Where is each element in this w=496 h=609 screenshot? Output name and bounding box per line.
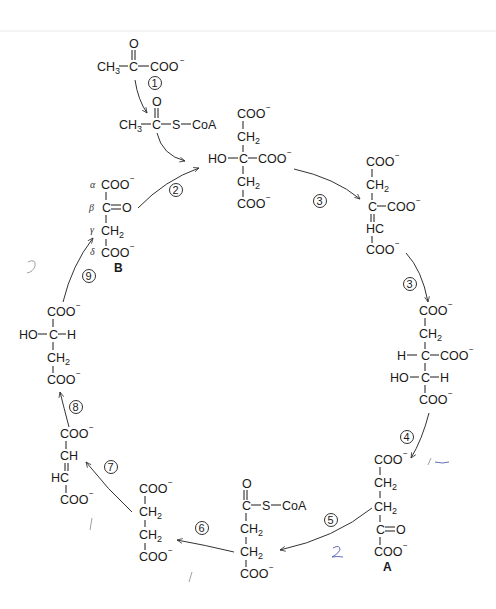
svg-text:HO: HO (390, 371, 409, 385)
svg-text:O: O (129, 37, 139, 51)
svg-text:COO: COO (47, 373, 76, 387)
svg-text:3: 3 (407, 278, 413, 290)
svg-text:CH3: CH3 (119, 118, 142, 134)
svg-text:COO: COO (60, 427, 89, 441)
svg-text:O: O (396, 523, 406, 537)
step-9-badge: 9 (83, 270, 96, 283)
svg-text:O: O (122, 201, 132, 215)
svg-text:CH2: CH2 (374, 500, 397, 516)
svg-text:C: C (129, 60, 138, 74)
svg-text:O: O (242, 477, 252, 491)
svg-text:CH2: CH2 (139, 528, 162, 544)
isocitrate-structure: COO − CH2 H C COO − HO C H COO − (390, 300, 474, 407)
svg-text:COO: COO (101, 178, 130, 192)
arrow-acetyl-to-citrate (157, 133, 185, 161)
svg-text:−: − (76, 301, 81, 310)
svg-text:CH2: CH2 (240, 522, 263, 538)
step-3b-badge: 3 (404, 278, 417, 291)
svg-text:COO: COO (150, 60, 179, 74)
svg-text:−: − (448, 389, 453, 398)
malate-structure: COO − HO C H CH2 COO − (19, 301, 81, 387)
svg-text:C: C (49, 328, 58, 342)
succinate-structure: COO − CH2 CH2 COO − (139, 478, 173, 564)
svg-text:HO: HO (19, 328, 38, 342)
svg-text:−: − (168, 478, 173, 487)
svg-text:δ: δ (90, 246, 95, 257)
svg-text:9: 9 (86, 270, 92, 282)
svg-text:2: 2 (173, 184, 179, 196)
svg-text:C: C (368, 200, 377, 214)
svg-text:6: 6 (199, 522, 205, 534)
succinyl-coa-structure: O C S CoA CH2 CH2 COO − (240, 477, 307, 581)
svg-text:4: 4 (404, 431, 410, 443)
svg-text:S: S (262, 499, 270, 513)
pyruvate-structure: CH3 C O COO − (97, 37, 185, 76)
svg-text:−: − (403, 449, 408, 458)
svg-text:COO: COO (366, 155, 395, 169)
svg-text:CoA: CoA (192, 118, 217, 132)
svg-text:CoA: CoA (282, 499, 307, 513)
svg-text:H: H (397, 349, 406, 363)
svg-text:COO: COO (258, 152, 287, 166)
svg-text:CH2: CH2 (374, 476, 397, 492)
svg-text:HO: HO (208, 152, 227, 166)
arrow-step-1 (135, 80, 147, 113)
svg-text:COO: COO (237, 107, 266, 121)
svg-text:COO: COO (387, 200, 416, 214)
svg-text:−: − (89, 423, 94, 432)
svg-text:C: C (421, 349, 430, 363)
svg-text:COO: COO (139, 482, 168, 496)
arrow-step-6 (177, 540, 234, 552)
svg-text:COO: COO (139, 550, 168, 564)
svg-text:O: O (152, 95, 162, 109)
svg-text:γ: γ (90, 224, 95, 235)
svg-text:COO: COO (440, 349, 469, 363)
svg-text:−: − (76, 369, 81, 378)
handwritten-2-mark (332, 546, 343, 557)
svg-text:−: − (448, 300, 453, 309)
svg-text:CH3: CH3 (97, 60, 120, 76)
svg-text:CH2: CH2 (366, 178, 389, 194)
arrow-step-2 (138, 168, 199, 208)
svg-text:7: 7 (108, 461, 114, 473)
label-a: A (383, 560, 392, 574)
svg-text:−: − (469, 345, 474, 354)
step-5-badge: 5 (325, 514, 338, 527)
arrow-step-8 (60, 392, 69, 427)
fumarate-structure: COO − CH HC COO − (51, 423, 94, 507)
step-2-badge: 2 (170, 184, 183, 197)
svg-text:S: S (172, 118, 180, 132)
handwritten-dash-mark (435, 462, 449, 463)
svg-text:−: − (269, 563, 274, 572)
cis-aconitate-structure: COO − CH2 C COO − HC COO − (366, 151, 421, 257)
label-b: B (114, 261, 123, 275)
citrate-structure: COO − CH2 HO C COO − CH2 COO − (208, 103, 292, 211)
svg-text:3: 3 (317, 195, 323, 207)
svg-text:8: 8 (73, 401, 79, 413)
handwritten-question-mark (27, 261, 35, 273)
step-7-badge: 7 (105, 461, 118, 474)
svg-text:−: − (403, 541, 408, 550)
svg-text:CH2: CH2 (101, 224, 124, 240)
arrow-step-5 (280, 508, 372, 550)
svg-text:−: − (395, 151, 400, 160)
svg-text:COO: COO (374, 545, 403, 559)
svg-text:α: α (90, 179, 96, 190)
step-1-badge: 1 (149, 77, 162, 90)
svg-text:H: H (440, 371, 449, 385)
svg-text:−: − (287, 148, 292, 157)
svg-text:COO: COO (101, 246, 130, 260)
svg-text:COO: COO (47, 305, 76, 319)
scan-edge-line (0, 30, 496, 32)
svg-text:−: − (416, 196, 421, 205)
acetyl-coa-structure: CH3 C O S CoA (119, 95, 217, 134)
svg-text:COO: COO (366, 243, 395, 257)
alpha-ketoglutarate-structure: COO − CH2 CH2 C O COO − A (374, 449, 408, 574)
step-8-badge: 8 (70, 401, 83, 414)
svg-text:−: − (395, 239, 400, 248)
svg-text:−: − (180, 56, 185, 65)
handwritten-slash-1 (90, 518, 92, 530)
svg-text:HC: HC (51, 471, 69, 485)
svg-text:−: − (130, 242, 135, 251)
svg-text:CH2: CH2 (419, 327, 442, 343)
